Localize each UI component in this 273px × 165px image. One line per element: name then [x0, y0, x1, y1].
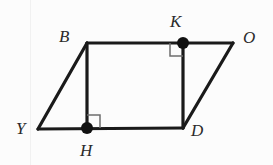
vertex-label-D: D [191, 122, 203, 139]
edge-D-Y [38, 128, 183, 129]
vertex-label-K: K [170, 13, 181, 30]
polygon-outline [38, 43, 233, 129]
marked-points [81, 37, 189, 134]
vertex-label-H: H [80, 142, 92, 159]
edge-O-D [183, 43, 233, 128]
vertex-label-B: B [59, 28, 69, 45]
vertex-label-O: O [243, 29, 255, 46]
point-H [81, 122, 93, 134]
vertex-label-Y: Y [16, 120, 25, 137]
edge-Y-B [38, 43, 87, 129]
right-angle-marks [87, 43, 183, 128]
point-K [177, 37, 189, 49]
figure-canvas [0, 0, 273, 165]
altitude-segments [87, 43, 183, 128]
geometry-figure: Y B K O D H [0, 0, 273, 165]
